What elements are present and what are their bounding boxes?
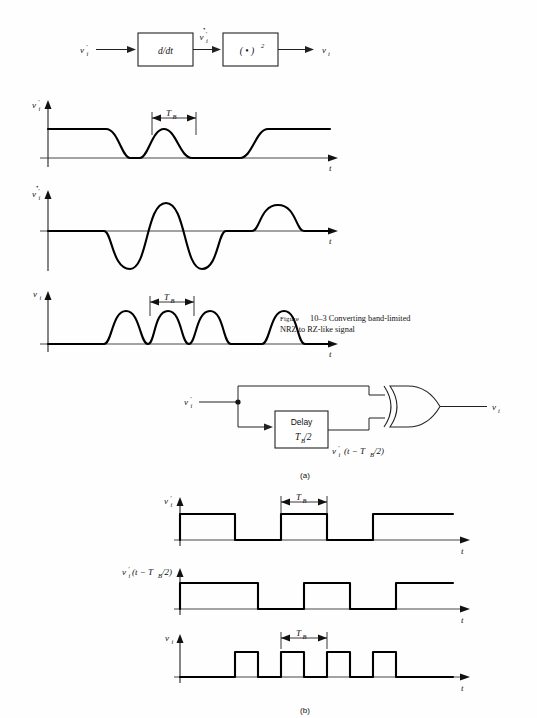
sublabel-b: (b): [300, 706, 310, 715]
svg-text:v: v: [122, 567, 126, 577]
plot2-waveform: [48, 203, 330, 269]
plot1-x-label: t: [329, 163, 332, 173]
svg-text:(t − T: (t − T: [132, 567, 154, 577]
svg-text:′: ′: [338, 444, 340, 451]
svg-text:′: ′: [190, 395, 192, 402]
svg-text:′: ′: [38, 98, 40, 105]
svg-text:i: i: [172, 638, 174, 645]
svg-text:d/dt: d/dt: [158, 46, 173, 56]
svg-text:Delay: Delay: [291, 417, 313, 427]
plot3-x-label: t: [329, 349, 332, 359]
svg-text:T: T: [166, 108, 172, 118]
svg-text:B: B: [173, 113, 177, 120]
figure-caption: Figure 10–3 Converting band-limited NRZ …: [280, 314, 411, 334]
plot-nrz-input: v ′ i t T B: [0, 488, 537, 560]
svg-text:i: i: [129, 572, 131, 579]
plot4-tb-marker: T B: [281, 492, 327, 514]
plot2-x-label: t: [329, 236, 332, 246]
svg-text:i: i: [328, 50, 330, 57]
top-input-label: v ′ i: [80, 43, 89, 57]
svg-text:v: v: [200, 32, 204, 42]
delay-block: Delay T B /2: [275, 411, 328, 448]
plot5-x-axis: [174, 606, 470, 613]
svg-text:( • ): ( • ): [240, 46, 254, 57]
svg-text:v: v: [322, 45, 326, 55]
circuit-delay-xor: v ′ i Delay T B /2 v ′ i (t − T B /2: [0, 378, 537, 488]
svg-text:′: ′: [206, 30, 208, 37]
svg-text:i: i: [87, 50, 89, 57]
plot-band-limited-nrz: v ′ i t T B: [0, 95, 360, 185]
svg-text:i: i: [339, 451, 341, 458]
svg-text:i: i: [40, 294, 42, 301]
svg-text:v: v: [80, 45, 84, 55]
arrow-deriv-to-square: [193, 46, 221, 53]
svg-text:T: T: [164, 292, 170, 302]
plot4-x-axis: [174, 537, 470, 544]
plot-nrz-delayed: v ′ i (t − T B /2) t: [0, 557, 537, 629]
plot5-x-label: t: [461, 615, 464, 625]
svg-text:v: v: [33, 289, 37, 299]
derivative-block: d/dt: [138, 33, 193, 66]
svg-text:i: i: [498, 407, 500, 414]
arrow-input-to-deriv: [96, 46, 136, 53]
svg-text:v: v: [492, 402, 496, 412]
circuit-input-label: v ′ i: [184, 395, 193, 409]
svg-text:(t − T: (t − T: [344, 446, 366, 456]
plot6-y-label: v i: [165, 633, 174, 645]
circuit-output-label: v i: [492, 402, 500, 414]
svg-text:B: B: [303, 497, 307, 504]
plot6-x-label: t: [461, 683, 464, 693]
svg-text:i: i: [39, 194, 41, 201]
squarer-block: ( • ) 2: [223, 33, 278, 66]
svg-text:v: v: [32, 189, 36, 199]
figure-page: v ′ i d/dt • v ′ i ( • ) 2: [0, 0, 537, 718]
svg-text:v: v: [165, 633, 169, 643]
svg-text:v: v: [184, 397, 188, 407]
svg-text:i: i: [171, 501, 173, 508]
plot6-waveform: [180, 652, 453, 677]
svg-text:′: ′: [86, 43, 88, 50]
plot3-y-axis: [45, 291, 52, 352]
svg-text:B: B: [171, 297, 175, 304]
svg-text:′: ′: [38, 187, 40, 194]
arrow-square-to-output: [278, 46, 314, 53]
plot5-y-label: v ′ i (t − T B /2): [122, 565, 172, 579]
svg-text:′: ′: [170, 494, 172, 501]
svg-text:/2: /2: [303, 432, 312, 442]
svg-text:v: v: [32, 100, 36, 110]
plot3-y-label: v i: [33, 289, 42, 301]
delayed-signal-label: v ′ i (t − T B /2): [332, 444, 384, 458]
plot5-waveform: [180, 583, 453, 609]
top-output-label: v i: [322, 45, 330, 57]
svg-text:v: v: [164, 496, 168, 506]
arrow-into-delay: [264, 424, 273, 431]
plot2-y-label: • v ′ i: [32, 183, 41, 201]
circuit-delay-out-wire: [328, 418, 385, 430]
plot4-y-label: v ′ i: [164, 494, 173, 508]
xor-gate: [384, 386, 440, 427]
svg-text:i: i: [39, 105, 41, 112]
svg-text:i: i: [206, 37, 208, 44]
svg-text:/2): /2): [161, 567, 172, 577]
svg-text:/2): /2): [373, 446, 384, 456]
svg-text:v: v: [332, 446, 336, 456]
svg-text:10–3 Converting band-limited: 10–3 Converting band-limited: [310, 314, 411, 323]
svg-text:T: T: [296, 492, 302, 502]
plot6-tb-marker: T B: [281, 628, 327, 649]
plot1-y-label: v ′ i: [32, 98, 41, 112]
plot6-y-axis: [177, 634, 184, 683]
svg-text:′: ′: [128, 565, 130, 572]
svg-text:B: B: [303, 633, 307, 640]
svg-text:NRZ to RZ-like signal: NRZ to RZ-like signal: [280, 325, 356, 334]
plot4-x-label: t: [461, 546, 464, 556]
circuit-lower-branch: [238, 402, 264, 427]
plot4-waveform: [180, 514, 453, 540]
svg-text:T: T: [296, 628, 302, 638]
circuit-upper-branch: [238, 386, 385, 402]
svg-text:i: i: [191, 402, 193, 409]
sublabel-a: (a): [300, 471, 310, 480]
plot1-waveform: [48, 129, 330, 158]
plot1-y-axis: [45, 100, 52, 167]
plot-derivative: • v ′ i t: [0, 183, 360, 278]
top-block-diagram: v ′ i d/dt • v ′ i ( • ) 2: [0, 0, 537, 95]
